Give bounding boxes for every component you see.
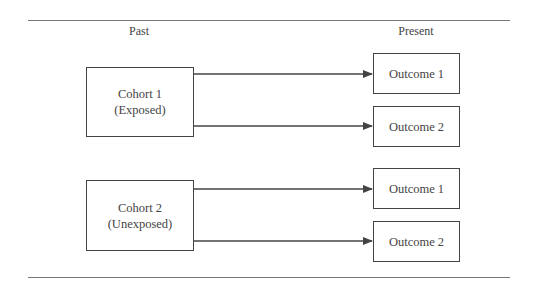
cohort-2-outcome-1-box: Outcome 1	[373, 168, 460, 209]
outcome-label: Outcome 1	[389, 66, 444, 82]
cohort-1-name: Cohort 1	[118, 86, 162, 102]
cohort-2-box: Cohort 2 (Unexposed)	[86, 180, 194, 251]
cohort-1-outcome-2-box: Outcome 2	[373, 106, 460, 147]
cohort-1-outcome-1-box: Outcome 1	[373, 53, 460, 94]
cohort-2-name: Cohort 2	[118, 200, 162, 216]
cohort-1-status: (Exposed)	[114, 102, 165, 118]
outcome-label: Outcome 1	[389, 181, 444, 197]
outcome-label: Outcome 2	[389, 234, 444, 250]
cohort-study-diagram: Past Present Cohort 1 (Exposed) Cohort 2…	[0, 0, 534, 291]
outcome-label: Outcome 2	[389, 119, 444, 135]
cohort-2-outcome-2-box: Outcome 2	[373, 221, 460, 262]
cohort-1-box: Cohort 1 (Exposed)	[86, 67, 194, 137]
cohort-2-status: (Unexposed)	[108, 216, 173, 232]
